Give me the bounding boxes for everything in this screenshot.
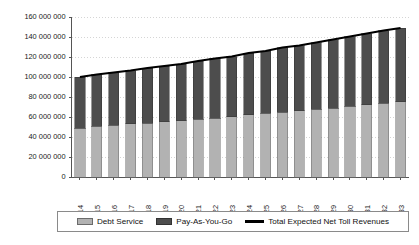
- bar-segment-pay-as-you-go: [193, 61, 203, 119]
- bar-segment-debt-service: [328, 108, 338, 177]
- bar-segment-pay-as-you-go: [345, 37, 355, 107]
- bar-segment-pay-as-you-go: [328, 40, 338, 109]
- y-tick-label: 80 000 000: [29, 92, 66, 101]
- legend-item-pay-as-you-go: Pay-As-You-Go: [156, 217, 232, 226]
- bar-segment-pay-as-you-go: [75, 77, 85, 128]
- legend-line-icon-total-revenues: [245, 220, 264, 223]
- y-tick-label: 100 000 000: [24, 72, 65, 81]
- bar-segment-debt-service: [294, 111, 304, 178]
- bar-segment-pay-as-you-go: [142, 68, 152, 123]
- bar-segment-pay-as-you-go: [227, 57, 237, 117]
- bar-segment-pay-as-you-go: [126, 71, 136, 124]
- bar-segment-debt-service: [109, 125, 119, 177]
- legend-label-debt-service: Debt Service: [97, 217, 143, 226]
- chart-plot-svg: 020 000 00040 000 00060 000 00080 000 00…: [0, 0, 419, 245]
- bar-segment-pay-as-you-go: [92, 75, 102, 127]
- bar-series-debt-service: [75, 102, 406, 178]
- bar-segment-debt-service: [362, 105, 372, 178]
- bar-series-pay-as-you-go: [75, 28, 406, 128]
- toll-revenue-chart: 020 000 00040 000 00060 000 00080 000 00…: [0, 0, 419, 245]
- y-axis: [69, 17, 72, 177]
- bar-segment-debt-service: [277, 112, 287, 177]
- bar-segment-pay-as-you-go: [176, 64, 186, 121]
- y-tick-label: 0: [61, 172, 65, 181]
- bar-segment-debt-service: [227, 117, 237, 178]
- legend-label-total-revenues: Total Expected Net Toll Revenues: [268, 217, 389, 226]
- legend-swatch-icon-pay-as-you-go: [156, 218, 172, 225]
- bar-segment-pay-as-you-go: [159, 66, 169, 122]
- bar-segment-debt-service: [311, 109, 321, 177]
- bar-segment-debt-service: [126, 124, 136, 178]
- y-tick-label: 60 000 000: [29, 112, 66, 121]
- bar-segment-pay-as-you-go: [311, 43, 321, 110]
- legend-swatch-icon-debt-service: [77, 218, 93, 225]
- x-axis: [72, 177, 410, 180]
- y-tick-label: 160 000 000: [24, 12, 65, 21]
- gridlines: [72, 17, 410, 157]
- y-tick-labels: 020 000 00040 000 00060 000 00080 000 00…: [24, 12, 65, 181]
- bar-segment-pay-as-you-go: [210, 59, 220, 119]
- bar-segment-debt-service: [379, 103, 389, 177]
- bar-segment-pay-as-you-go: [294, 46, 304, 111]
- bar-segment-pay-as-you-go: [379, 31, 389, 104]
- bar-segment-pay-as-you-go: [261, 51, 271, 113]
- bar-segment-debt-service: [75, 128, 85, 177]
- legend-label-pay-as-you-go: Pay-As-You-Go: [176, 217, 232, 226]
- bar-segment-debt-service: [210, 118, 220, 177]
- legend-item-debt-service: Debt Service: [77, 217, 143, 226]
- y-tick-label: 120 000 000: [24, 52, 65, 61]
- bar-segment-pay-as-you-go: [109, 73, 119, 126]
- bar-segment-debt-service: [261, 113, 271, 177]
- bar-segment-debt-service: [345, 106, 355, 177]
- bar-segment-debt-service: [92, 126, 102, 177]
- bar-segment-pay-as-you-go: [362, 34, 372, 105]
- bar-segment-pay-as-you-go: [277, 48, 287, 113]
- bar-segment-debt-service: [176, 121, 186, 178]
- bar-segment-pay-as-you-go: [244, 53, 254, 115]
- legend-item-total-revenues: Total Expected Net Toll Revenues: [245, 217, 389, 226]
- bar-segment-debt-service: [159, 122, 169, 178]
- bar-segment-debt-service: [244, 115, 254, 178]
- bar-segment-debt-service: [142, 123, 152, 177]
- y-tick-label: 140 000 000: [24, 32, 65, 41]
- chart-legend: Debt Service Pay-As-You-Go Total Expecte…: [57, 211, 409, 232]
- bar-segment-pay-as-you-go: [396, 28, 406, 102]
- bar-segment-debt-service: [193, 119, 203, 177]
- y-tick-label: 40 000 000: [29, 132, 66, 141]
- bar-segment-debt-service: [396, 102, 406, 178]
- y-tick-label: 20 000 000: [29, 152, 66, 161]
